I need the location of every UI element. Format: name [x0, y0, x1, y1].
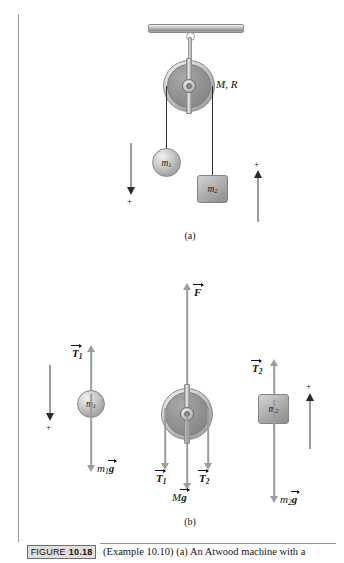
force-label-Mg-pulley: Mg — [172, 492, 187, 503]
ceiling-support-bar — [148, 24, 244, 33]
mass1-label: m1 — [153, 157, 180, 168]
force-arrow-T1-down-pulley — [160, 408, 170, 470]
sign-arrow-right-a — [253, 170, 263, 222]
force-label-T2-pulley: T2 — [199, 473, 209, 486]
force-arrow-T2-down-pulley — [203, 408, 213, 470]
sign-arrow-right-b — [305, 393, 315, 449]
panel-b-label: (b) — [170, 516, 210, 527]
pulley-wheel — [163, 60, 215, 112]
sign-arrow-left-a — [126, 143, 136, 195]
force-label-T1-pulley: T1 — [156, 473, 166, 486]
mass2-label: m2 — [198, 184, 227, 195]
sign-plus-left-b: + — [46, 422, 51, 432]
pulley-hub-inner — [186, 83, 192, 89]
sign-plus-left-a: + — [127, 196, 132, 206]
sign-plus-right-b: + — [306, 381, 311, 391]
figure-10-18: M, R m1 m2 + + (a) — [0, 0, 344, 563]
caption-rule — [100, 543, 336, 544]
force-arrow-m2g-down-body2 — [269, 400, 279, 503]
cord-left — [166, 86, 167, 150]
panel-a-label: (a) — [170, 230, 210, 241]
figure-number-box: FIGURE10.18 — [27, 545, 96, 559]
mass1-sphere: m1 — [152, 148, 181, 177]
force-label-T2-body2: T2 — [252, 363, 262, 376]
force-label-m1g-body1: m1g — [97, 463, 114, 476]
cord-right — [212, 86, 213, 176]
figure-number-prefix: FIGURE — [31, 547, 66, 557]
mass2-block: m2 — [197, 175, 228, 203]
pulley-mass-radius-label: M, R — [216, 79, 237, 90]
sign-plus-right-a: + — [254, 159, 259, 169]
figure-caption: (Example 10.10) (a) An Atwood machine wi… — [103, 546, 305, 557]
force-arrow-m1g-down-body1 — [86, 394, 96, 472]
column-rule — [18, 14, 19, 542]
force-label-T1-body1: T1 — [72, 348, 82, 361]
force-arrow-Mg-down-pulley — [182, 415, 192, 490]
force-label-F-pulley: F — [194, 287, 201, 298]
figure-number-value: 10.18 — [69, 547, 93, 557]
force-label-m2g-body2: m2g — [280, 494, 297, 507]
sign-arrow-left-b — [45, 365, 55, 421]
